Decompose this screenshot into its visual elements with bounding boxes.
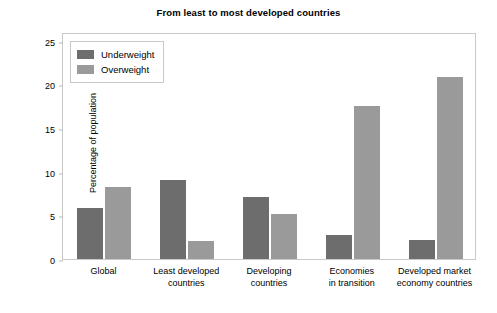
legend-swatch-icon	[77, 50, 94, 59]
x-tick-label: Developed marketeconomy countries	[383, 266, 487, 289]
y-tick-label: 20	[21, 81, 63, 91]
x-tick-label-line: Developed market	[383, 266, 487, 278]
chart-title: From least to most developed countries	[0, 7, 497, 18]
bar-group	[160, 34, 214, 259]
bar-overweight	[354, 106, 380, 259]
legend-item[interactable]: Underweight	[77, 47, 154, 62]
legend-item-label: Overweight	[101, 64, 149, 75]
legend-item[interactable]: Overweight	[77, 62, 154, 77]
bar-group	[326, 34, 380, 259]
bar-overweight	[188, 241, 214, 259]
legend-item-label: Underweight	[101, 49, 154, 60]
x-tick-label-line: economy countries	[383, 278, 487, 290]
bar-chart-figure: From least to most developed countries P…	[0, 0, 497, 313]
bar-underweight	[409, 240, 435, 259]
y-tick-label: 0	[21, 256, 63, 266]
bar-overweight	[271, 214, 297, 259]
bar-underweight	[243, 197, 269, 259]
y-tick-label: 5	[21, 212, 63, 222]
legend-swatch-icon	[77, 65, 94, 74]
bar-group	[409, 34, 463, 259]
y-tick-label: 15	[21, 125, 63, 135]
bar-underweight	[160, 180, 186, 259]
y-tick-label: 10	[21, 169, 63, 179]
y-tick-label: 25	[21, 38, 63, 48]
chart-legend: UnderweightOverweight	[70, 41, 164, 83]
y-tick-mark	[59, 261, 63, 262]
bar-overweight	[437, 77, 463, 259]
bar-overweight	[105, 187, 131, 259]
bar-underweight	[326, 235, 352, 259]
bar-underweight	[77, 208, 103, 260]
bar-group	[243, 34, 297, 259]
